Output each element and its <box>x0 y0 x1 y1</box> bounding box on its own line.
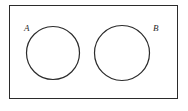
set-circle-a <box>27 27 80 80</box>
universal-set-rectangle <box>10 6 178 99</box>
venn-diagram-canvas: A B <box>0 0 188 111</box>
set-label-b: B <box>153 23 159 33</box>
set-circle-b <box>95 26 150 81</box>
set-label-a: A <box>23 23 30 33</box>
venn-diagram-figure: A B <box>0 0 188 111</box>
